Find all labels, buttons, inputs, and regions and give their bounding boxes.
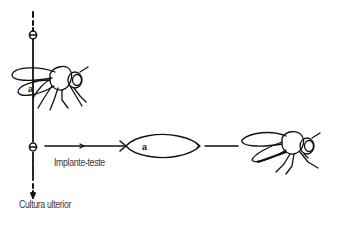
further-culture-arrow — [31, 168, 36, 199]
implant-marker-larva: a — [142, 142, 148, 152]
implant-test-arrow — [45, 141, 126, 151]
fly-result-icon — [242, 132, 320, 174]
generation-marker-mid-icon — [28, 142, 38, 152]
generation-marker-top-icon — [30, 31, 37, 39]
fly-host-icon — [12, 67, 88, 110]
further-culture-label: Cultura ulterior — [19, 199, 71, 210]
implant-test-label: Implante-teste — [54, 157, 105, 168]
diagram-canvas: a a — [0, 0, 340, 226]
larva-test-icon — [126, 134, 200, 157]
